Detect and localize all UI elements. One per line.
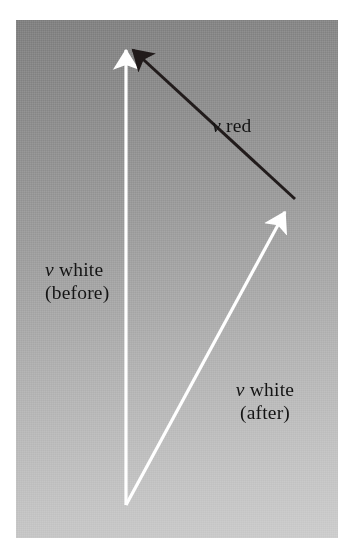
figure-plate: v red v white(before) v white(after): [16, 20, 338, 538]
label-v-white-before-line2: (before): [45, 282, 109, 303]
cropped-caption-remnant: [0, 0, 353, 12]
page-canvas: v red v white(before) v white(after): [0, 0, 353, 552]
vector-v-white-after: [126, 212, 285, 505]
label-v-white-before: v white(before): [45, 258, 109, 304]
label-v-red: v red: [212, 114, 251, 137]
label-v-white-before-symbol: v: [45, 259, 54, 280]
label-v-white-after-text: white: [245, 379, 294, 400]
label-v-red-symbol: v: [212, 115, 221, 136]
label-v-red-text: red: [221, 115, 252, 136]
label-v-white-after-symbol: v: [236, 379, 245, 400]
label-v-white-after: v white(after): [209, 378, 321, 424]
label-v-white-before-text: white: [54, 259, 103, 280]
label-v-white-after-line2: (after): [240, 402, 290, 423]
